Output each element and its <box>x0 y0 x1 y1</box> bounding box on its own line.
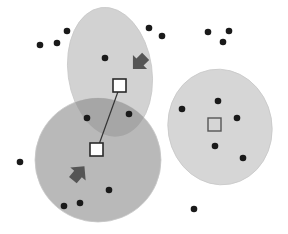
data-point-top <box>102 55 109 62</box>
data-point-right <box>234 115 241 122</box>
data-point-unassigned <box>220 39 227 46</box>
diagram-canvas <box>0 0 288 234</box>
data-point-right <box>212 143 219 150</box>
data-point-bottom-left <box>61 203 68 210</box>
data-point-bottom-left <box>77 200 84 207</box>
data-point-unassigned <box>191 206 198 213</box>
centroid-bottom-left-marker <box>90 143 103 156</box>
data-point-overlap <box>84 115 91 122</box>
data-point-unassigned <box>17 159 24 166</box>
data-point-right <box>215 98 222 105</box>
data-point-overlap <box>126 111 133 118</box>
data-point-right <box>179 106 186 113</box>
data-point-bottom-left <box>106 187 113 194</box>
data-point-unassigned <box>64 28 71 35</box>
cluster-right-ellipse <box>159 61 282 193</box>
data-point-unassigned <box>54 40 61 47</box>
data-point-unassigned <box>205 29 212 36</box>
data-point-top <box>146 25 153 32</box>
data-point-unassigned <box>37 42 44 49</box>
data-point-top <box>159 33 166 40</box>
kmeans-diagram <box>0 0 288 234</box>
data-point-unassigned <box>226 28 233 35</box>
centroid-top-marker <box>113 79 126 92</box>
data-point-right <box>240 155 247 162</box>
